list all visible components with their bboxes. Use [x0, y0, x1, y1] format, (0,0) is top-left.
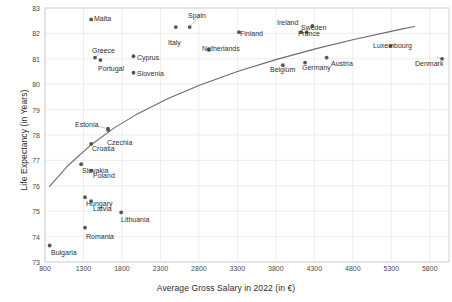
data-point-spain — [188, 25, 192, 29]
y-tick-label: 75 — [21, 208, 40, 215]
point-label-greece: Greece — [92, 47, 115, 54]
x-tick-label: 2800 — [191, 265, 207, 272]
y-tick-label: 73 — [21, 259, 40, 266]
y-tick-label: 77 — [21, 157, 40, 164]
point-label-italy: Italy — [168, 39, 181, 46]
x-tick-label: 800 — [39, 265, 51, 272]
point-label-bulgaria: Bulgaria — [51, 249, 77, 256]
y-tick-label: 83 — [21, 5, 40, 12]
data-point-italy — [174, 25, 178, 29]
x-tick-label: 5300 — [383, 265, 399, 272]
data-point-romania — [83, 226, 87, 230]
point-label-austria: Austria — [331, 60, 353, 67]
y-tick-label: 74 — [21, 233, 40, 240]
data-point-hungary — [83, 195, 87, 199]
point-label-portugal: Portugal — [98, 65, 124, 72]
point-label-germany: Germany — [302, 64, 331, 71]
x-tick-label: 2300 — [153, 265, 169, 272]
data-point-greece — [93, 56, 97, 60]
point-label-denmark: Denmark — [415, 60, 443, 67]
y-tick-label: 78 — [21, 132, 40, 139]
x-axis-title: Average Gross Salary in 2022 (in €) — [0, 283, 452, 293]
x-tick-label: 5800 — [422, 265, 438, 272]
point-label-malta: Malta — [94, 15, 111, 22]
data-point-austria — [325, 56, 329, 60]
y-tick-label: 81 — [21, 55, 40, 62]
y-tick-label: 76 — [21, 182, 40, 189]
data-point-malta — [89, 18, 93, 22]
point-label-lithuania: Lithuania — [121, 216, 149, 223]
point-label-belgium: Belgium — [270, 66, 295, 73]
x-tick-label: 3800 — [268, 265, 284, 272]
point-label-spain: Spain — [188, 12, 206, 19]
point-label-poland: Poland — [93, 172, 115, 179]
point-label-luxembourg: Luxembourg — [373, 42, 412, 49]
y-tick-label: 79 — [21, 106, 40, 113]
y-tick-label: 82 — [21, 30, 40, 37]
data-point-bulgaria — [48, 244, 52, 248]
point-label-romania: Romania — [86, 233, 114, 240]
data-point-portugal — [99, 58, 103, 62]
data-point-czechia — [106, 128, 110, 132]
data-point-slovenia — [132, 71, 136, 75]
y-tick-label: 80 — [21, 81, 40, 88]
point-label-france: France — [298, 30, 320, 37]
x-tick-label: 4300 — [307, 265, 323, 272]
scatter-chart: Average Gross Salary in 2022 (in €) Life… — [0, 0, 452, 302]
x-tick-label: 1300 — [76, 265, 92, 272]
point-label-estonia: Estonia — [75, 121, 98, 128]
data-point-slovakia — [79, 162, 83, 166]
point-label-ireland: Ireland — [277, 19, 298, 26]
point-label-finland: Finland — [240, 30, 263, 37]
data-point-lithuania — [119, 211, 123, 215]
x-tick-label: 4800 — [345, 265, 361, 272]
point-label-netherlands: Netherlands — [202, 45, 240, 52]
point-label-latvia: Latvia — [93, 205, 112, 212]
data-point-cyprus — [132, 54, 136, 58]
point-label-cyprus: Cyprus — [137, 54, 159, 61]
point-label-croatia: Croatia — [92, 145, 115, 152]
x-tick-label: 1800 — [114, 265, 130, 272]
x-tick-label: 3300 — [230, 265, 246, 272]
point-label-slovenia: Slovenia — [137, 70, 164, 77]
